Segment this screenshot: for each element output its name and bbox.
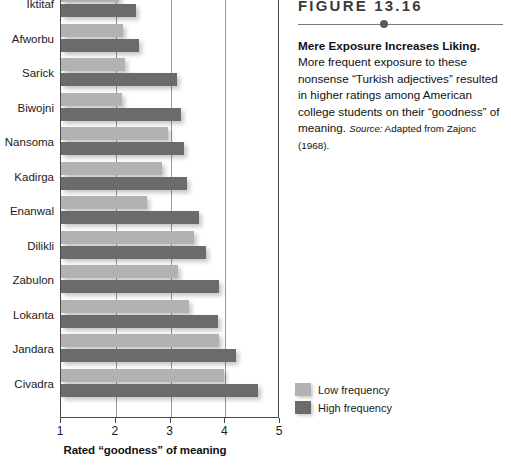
x-tick-label: 1 <box>57 424 64 438</box>
category-label: Biwojni <box>0 102 54 114</box>
bar-low-frequency <box>61 24 123 37</box>
bar-row <box>61 230 278 265</box>
divider-line <box>298 24 503 25</box>
chart-legend: Low frequencyHigh frequency <box>295 383 425 419</box>
category-label: Zabulon <box>0 274 54 286</box>
bar-row <box>61 92 278 127</box>
caption-source-label: Source: <box>349 123 382 134</box>
caption-headline: Mere Exposure Increases Liking. <box>298 39 480 52</box>
category-label: Kadirga <box>0 171 54 183</box>
legend-label: High frequency <box>318 402 392 414</box>
bar-high-frequency <box>61 211 199 224</box>
bar-row <box>61 0 278 23</box>
caption-divider <box>298 20 503 29</box>
bar-high-frequency <box>61 108 181 121</box>
bar-row <box>61 264 278 299</box>
bar-high-frequency <box>61 280 219 293</box>
bar-high-frequency <box>61 246 206 259</box>
x-tick-mark <box>224 418 225 423</box>
category-label: Jandara <box>0 343 54 355</box>
bar-row <box>61 161 278 196</box>
bar-high-frequency <box>61 349 236 362</box>
figure-caption-panel: FIGURE 13.16 Mere Exposure Increases Lik… <box>298 0 503 155</box>
legend-swatch <box>295 383 311 396</box>
legend-entry: Low frequency <box>295 383 425 396</box>
bar-low-frequency <box>61 196 147 209</box>
category-label: Iktitaf <box>0 0 54 10</box>
bar-low-frequency <box>61 162 162 175</box>
bar-high-frequency <box>61 177 187 190</box>
x-tick-label: 4 <box>221 424 228 438</box>
x-tick-label: 3 <box>166 424 173 438</box>
bar-row <box>61 23 278 58</box>
x-tick-label: 2 <box>111 424 118 438</box>
bar-chart: IktitafAfworbuSarickBiwojniNansomaKadirg… <box>0 0 290 473</box>
bar-low-frequency <box>61 369 224 382</box>
bar-row <box>61 126 278 161</box>
legend-swatch <box>295 401 311 414</box>
bar-row <box>61 368 278 403</box>
caption-body: Mere Exposure Increases Liking. More fre… <box>298 38 503 155</box>
bar-low-frequency <box>61 0 119 2</box>
bar-high-frequency <box>61 4 136 17</box>
bar-low-frequency <box>61 127 168 140</box>
category-label: Enanwal <box>0 205 54 217</box>
bar-high-frequency <box>61 39 139 52</box>
bar-low-frequency <box>61 93 122 106</box>
bar-rows <box>61 0 278 417</box>
divider-dot-icon <box>380 20 388 28</box>
category-label: Afworbu <box>0 33 54 45</box>
bar-low-frequency <box>61 265 178 278</box>
bar-low-frequency <box>61 58 125 71</box>
bar-row <box>61 333 278 368</box>
figure-number: FIGURE 13.16 <box>298 0 503 12</box>
bar-high-frequency <box>61 73 177 86</box>
bar-low-frequency <box>61 334 219 347</box>
x-tick-mark <box>170 418 171 423</box>
bar-high-frequency <box>61 384 258 397</box>
category-label: Dilikli <box>0 240 54 252</box>
bar-high-frequency <box>61 315 218 328</box>
category-label: Lokanta <box>0 309 54 321</box>
bar-row <box>61 57 278 92</box>
category-label: Nansoma <box>0 136 54 148</box>
x-axis-title: Rated “goodness” of meaning <box>0 444 290 456</box>
category-label: Sarick <box>0 67 54 79</box>
legend-entry: High frequency <box>295 401 425 414</box>
bar-row <box>61 299 278 334</box>
bar-low-frequency <box>61 231 194 244</box>
bar-high-frequency <box>61 142 184 155</box>
x-tick-mark <box>115 418 116 423</box>
x-tick-mark <box>60 418 61 423</box>
category-label: Civadra <box>0 378 54 390</box>
category-axis-labels: IktitafAfworbuSarickBiwojniNansomaKadirg… <box>0 0 54 473</box>
bar-low-frequency <box>61 300 189 313</box>
x-tick-mark <box>279 418 280 423</box>
legend-label: Low frequency <box>318 384 390 396</box>
x-tick-label: 5 <box>276 424 283 438</box>
plot-area <box>60 0 279 418</box>
bar-row <box>61 195 278 230</box>
